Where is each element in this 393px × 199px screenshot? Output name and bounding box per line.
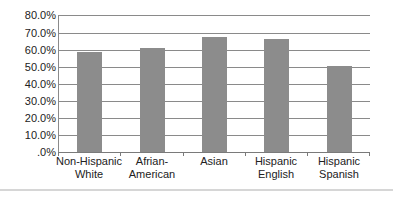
y-tick-label: 20.0% bbox=[25, 112, 56, 124]
bar-asian bbox=[202, 37, 227, 152]
x-label-line: Non-Hispanic bbox=[54, 155, 124, 168]
x-label-line: Spanish bbox=[304, 168, 374, 181]
bar-chart: .0% 10.0% 20.0% 30.0% 40.0% 50.0% 60.0% … bbox=[0, 0, 393, 199]
gridline bbox=[58, 15, 370, 16]
gridline bbox=[58, 33, 370, 34]
x-label: Non-Hispanic White bbox=[54, 155, 124, 181]
x-label: Hispanic English bbox=[241, 155, 311, 181]
x-label-line: White bbox=[54, 168, 124, 181]
x-label-line: Hispanic bbox=[304, 155, 374, 168]
y-axis-line bbox=[58, 15, 59, 153]
x-label-line: English bbox=[241, 168, 311, 181]
x-label: Afrian- American bbox=[117, 155, 187, 181]
y-tick-label: 60.0% bbox=[25, 44, 56, 56]
x-label-line: Asian bbox=[179, 155, 249, 168]
bar-hispanic-english bbox=[264, 39, 289, 152]
x-label: Hispanic Spanish bbox=[304, 155, 374, 181]
x-label-line: American bbox=[117, 168, 187, 181]
bar-non-hispanic-white bbox=[77, 52, 102, 152]
y-tick-label: 30.0% bbox=[25, 95, 56, 107]
bottom-divider bbox=[0, 189, 393, 191]
y-tick-label: 70.0% bbox=[25, 27, 56, 39]
bar-afrian-american bbox=[140, 48, 165, 152]
x-axis-line bbox=[58, 152, 370, 153]
y-tick-label: 10.0% bbox=[25, 129, 56, 141]
x-label-line: Afrian- bbox=[117, 155, 187, 168]
bar-hispanic-spanish bbox=[327, 66, 352, 152]
x-label: Asian bbox=[179, 155, 249, 168]
x-label-line: Hispanic bbox=[241, 155, 311, 168]
y-tick-label: 50.0% bbox=[25, 61, 56, 73]
y-tick-label: 40.0% bbox=[25, 78, 56, 90]
y-tick-label: 80.0% bbox=[25, 9, 56, 21]
